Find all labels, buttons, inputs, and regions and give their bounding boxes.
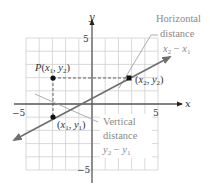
coordinate-diagram: x y 5 −5 −5 5 P(x1, y2) (x1, y1) (x2, y2…: [0, 0, 210, 194]
x-tick-5: 5: [153, 108, 159, 118]
x-axis-label: x: [185, 98, 191, 109]
horizontal-distance-line2: distance: [160, 28, 195, 39]
vertical-distance-line1: Vertical: [103, 116, 136, 127]
y-tick-neg5: −5: [77, 165, 91, 175]
vertical-distance-line2: distance: [103, 130, 138, 141]
point-x2y2: [127, 76, 132, 81]
y-tick-5: 5: [83, 34, 89, 44]
point-x1y1: [50, 114, 55, 119]
horizontal-distance-expr: x2 − x1: [162, 43, 191, 56]
y-axis-label: y: [88, 11, 95, 22]
x-tick-neg5: −5: [12, 108, 26, 118]
point-p: [50, 75, 55, 80]
horizontal-distance-line1: Horizontal: [156, 13, 201, 24]
vertical-leader: [35, 94, 98, 122]
label-x2y2: (x2, y2): [135, 74, 164, 87]
